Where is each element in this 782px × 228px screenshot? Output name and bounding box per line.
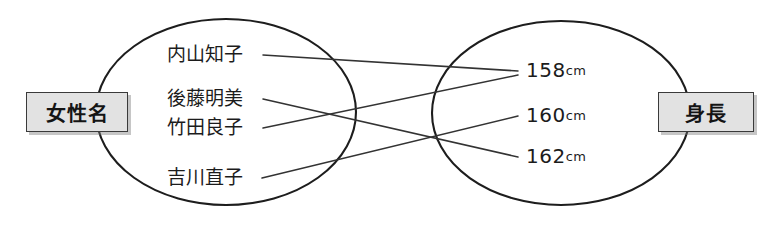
right-member-2-value: 160 [526, 103, 566, 127]
right-member-3-value: 162 [526, 144, 566, 168]
mapping-line-goto-162 [263, 99, 518, 157]
right-member-1-value: 158 [526, 58, 566, 82]
diagram-canvas: 内山知子 後藤明美 竹田良子 吉川直子 158cm 160cm 162cm 女性… [0, 0, 782, 228]
right-set-label-text: 身長 [685, 98, 727, 127]
left-set-label-box: 女性名 [26, 92, 128, 132]
left-member-4: 吉川直子 [167, 166, 243, 188]
mapping-line-uchiyama-158 [263, 55, 518, 71]
left-member-3: 竹田良子 [167, 116, 243, 138]
right-set-label-box: 身長 [658, 92, 754, 132]
right-member-2-unit: cm [566, 108, 587, 123]
left-set-label-text: 女性名 [46, 98, 109, 127]
mapping-line-takeda-158 [263, 75, 518, 128]
right-member-3-unit: cm [566, 149, 587, 164]
right-member-1-unit: cm [566, 63, 587, 78]
left-member-1: 内山知子 [167, 43, 243, 65]
right-member-1: 158cm [526, 58, 587, 82]
right-member-3: 162cm [526, 144, 587, 168]
mapping-line-yoshikawa-160 [262, 116, 518, 178]
right-member-2: 160cm [526, 103, 587, 127]
left-member-2: 後藤明美 [167, 87, 243, 109]
